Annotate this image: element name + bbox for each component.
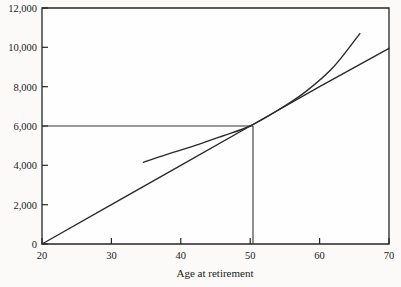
chart-page: 12,000 10,000 8,000 6,000 4,000 2,000 0 … (0, 0, 401, 287)
x-axis-title: Age at retirement (177, 267, 254, 279)
x-tick-label-20: 20 (37, 250, 48, 261)
y-tick-label-0: 0 (32, 239, 37, 250)
y-tick-label-10000: 10,000 (8, 42, 37, 53)
x-tick-label-60: 60 (314, 250, 325, 261)
y-tick-label-2000: 2,000 (13, 200, 37, 211)
y-tick-label-4000: 4,000 (13, 160, 37, 171)
x-tick-label-50: 50 (245, 250, 256, 261)
x-tick-label-30: 30 (106, 250, 117, 261)
y-tick-label-8000: 8,000 (13, 82, 37, 93)
retirement-age-chart: 12,000 10,000 8,000 6,000 4,000 2,000 0 … (0, 0, 401, 287)
x-tick-label-70: 70 (384, 250, 395, 261)
y-tick-label-6000: 6,000 (13, 121, 37, 132)
x-tick-label-40: 40 (176, 250, 187, 261)
y-tick-label-12000: 12,000 (8, 3, 37, 14)
